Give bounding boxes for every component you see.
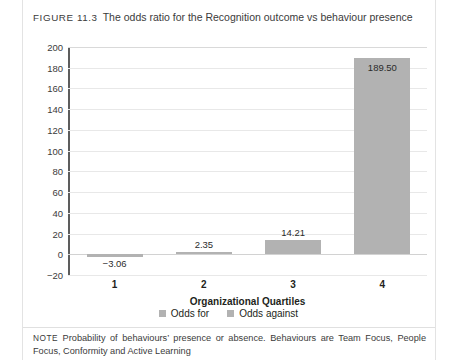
note-separator bbox=[23, 327, 435, 328]
chart-legend: Odds for Odds against bbox=[22, 308, 435, 319]
figure-number: FIGURE 11.3 bbox=[33, 12, 98, 23]
bar-group: 14.21 bbox=[249, 47, 338, 275]
bar-group: 2.35 bbox=[159, 47, 248, 275]
bar[interactable] bbox=[176, 252, 232, 254]
bar[interactable] bbox=[354, 58, 410, 254]
y-axis-tick-label: 140 bbox=[47, 104, 63, 115]
bar[interactable] bbox=[87, 254, 143, 257]
legend-swatch-icon bbox=[159, 310, 166, 317]
bar[interactable] bbox=[265, 240, 321, 255]
bar-value-label: −3.06 bbox=[103, 258, 127, 269]
y-axis-tick-label: 60 bbox=[52, 187, 63, 198]
y-axis-tick-label: 160 bbox=[47, 83, 63, 94]
x-axis-tick-label: 2 bbox=[159, 279, 248, 290]
page-edge-right bbox=[435, 0, 436, 360]
y-axis-tick-label: 180 bbox=[47, 62, 63, 73]
x-axis-tick-label: 4 bbox=[338, 279, 427, 290]
x-axis-tick-labels: 1234 bbox=[70, 279, 427, 290]
figure-page: FIGURE 11.3The odds ratio for the Recogn… bbox=[0, 0, 457, 360]
bar-group: 189.50 bbox=[338, 47, 427, 275]
note-label: NOTE bbox=[33, 333, 58, 343]
y-axis-tick-label: 80 bbox=[52, 166, 63, 177]
bar-value-label: 189.50 bbox=[368, 62, 397, 73]
legend-item-odds-against: Odds against bbox=[227, 308, 298, 319]
figure-title: FIGURE 11.3The odds ratio for the Recogn… bbox=[33, 10, 429, 25]
plot-area: 200180160140120100806040200−20 −3.062.35… bbox=[68, 47, 427, 275]
bar-series: −3.062.3514.21189.50 bbox=[70, 47, 427, 275]
legend-label: Odds for bbox=[171, 308, 209, 319]
y-axis-tick-label: −20 bbox=[47, 270, 63, 281]
legend-swatch-icon bbox=[227, 310, 234, 317]
bar-value-label: 14.21 bbox=[281, 227, 305, 238]
bar-chart: 200180160140120100806040200−20 −3.062.35… bbox=[22, 40, 435, 310]
legend-label: Odds against bbox=[239, 308, 298, 319]
gridline: −20 bbox=[68, 275, 427, 276]
bar-group: −3.06 bbox=[70, 47, 159, 275]
y-axis-tick-label: 0 bbox=[58, 249, 63, 260]
x-axis-tick-label: 1 bbox=[70, 279, 159, 290]
y-axis-tick-label: 200 bbox=[47, 42, 63, 53]
bar-value-label: 2.35 bbox=[195, 239, 214, 250]
legend-item-odds-for: Odds for bbox=[159, 308, 209, 319]
y-axis-tick-label: 20 bbox=[52, 228, 63, 239]
figure-note: NOTE Probability of behaviours’ presence… bbox=[33, 332, 426, 357]
y-axis-tick-label: 120 bbox=[47, 124, 63, 135]
y-axis-tick-label: 40 bbox=[52, 207, 63, 218]
note-text: Probability of behaviours’ presence or a… bbox=[33, 333, 426, 356]
x-axis-tick-label: 3 bbox=[249, 279, 338, 290]
figure-caption: The odds ratio for the Recognition outco… bbox=[103, 11, 413, 23]
x-axis-title: Organizational Quartiles bbox=[68, 296, 427, 307]
y-axis-tick-label: 100 bbox=[47, 145, 63, 156]
